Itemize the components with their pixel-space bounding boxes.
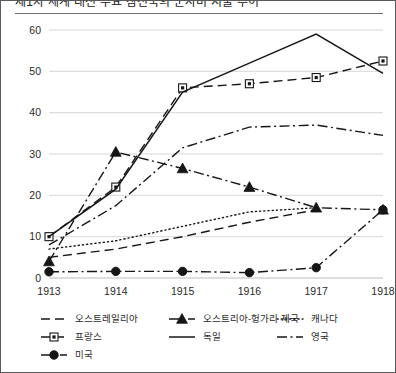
series-line [49, 152, 383, 262]
marker-open-square [312, 74, 320, 82]
legend-label: 캐나다 [311, 313, 338, 324]
y-axis-tick-labels: 0102030405060 [29, 24, 41, 284]
legend-label: 독일 [203, 331, 221, 342]
chart-legend: 오스트레일리아오스트리아-헝가리 제국캐나다프랑스독일영국미국 [41, 313, 338, 360]
legend-item-오스트리아-헝가리 제국[interactable]: 오스트리아-헝가리 제국 [169, 313, 299, 324]
legend-label: 프랑스 [75, 331, 102, 342]
legend-item-오스트레일리아[interactable]: 오스트레일리아 [41, 313, 138, 324]
legend-item-미국[interactable]: 미국 [41, 349, 93, 360]
x-tick-label: 1913 [37, 285, 61, 297]
gridlines-group [49, 30, 383, 278]
legend-item-프랑스[interactable]: 프랑스 [41, 331, 102, 342]
series-line [49, 210, 316, 258]
x-tick-label: 1918 [371, 285, 395, 297]
series-독일 [49, 34, 383, 237]
series-line [49, 61, 383, 237]
y-tick-label: 10 [29, 230, 41, 242]
marker-filled-circle [245, 268, 253, 276]
legend-label: 오스트리아-헝가리 제국 [203, 313, 299, 324]
marker-open-square [379, 57, 387, 65]
y-tick-label: 0 [35, 272, 41, 284]
series-오스트리아-헝가리 제국 [44, 147, 389, 266]
legend-label: 오스트레일리아 [75, 313, 138, 324]
series-미국 [45, 206, 387, 277]
marker-filled-circle [50, 351, 58, 359]
marker-open-square [245, 80, 253, 88]
y-tick-label: 20 [29, 189, 41, 201]
chart-container: 제1차 세계 대전 주요 참전국의 군사비 지출 추이 010203040506… [0, 0, 396, 373]
marker-filled-circle [379, 206, 387, 214]
series-프랑스 [45, 57, 387, 241]
x-axis-tick-labels: 191319141915191619171918 [37, 285, 395, 297]
marker-triangle [110, 147, 121, 157]
series-group [44, 34, 389, 277]
series-line [49, 208, 316, 249]
x-tick-label: 1915 [171, 285, 195, 297]
series-캐나다 [49, 208, 316, 249]
legend-label: 미국 [75, 349, 93, 360]
series-line [49, 34, 383, 237]
line-chart-plot: 0102030405060 191319141915191619171918 오… [1, 1, 396, 373]
series-오스트레일리아 [49, 210, 316, 258]
y-tick-label: 60 [29, 24, 41, 36]
legend-item-독일[interactable]: 독일 [169, 331, 221, 342]
y-tick-label: 40 [29, 106, 41, 118]
x-tick-label: 1914 [104, 285, 128, 297]
y-tick-label: 50 [29, 65, 41, 77]
marker-filled-circle [45, 268, 53, 276]
legend-item-영국[interactable]: 영국 [277, 331, 329, 342]
marker-triangle [244, 182, 255, 192]
x-tick-label: 1917 [305, 285, 329, 297]
marker-filled-circle [178, 267, 186, 275]
y-tick-label: 30 [29, 148, 41, 160]
marker-filled-circle [112, 267, 120, 275]
marker-filled-circle [312, 263, 320, 271]
series-line [49, 125, 383, 245]
series-영국 [49, 125, 383, 245]
legend-label: 영국 [311, 331, 329, 342]
marker-open-square [50, 333, 58, 341]
x-tick-label: 1916 [238, 285, 262, 297]
